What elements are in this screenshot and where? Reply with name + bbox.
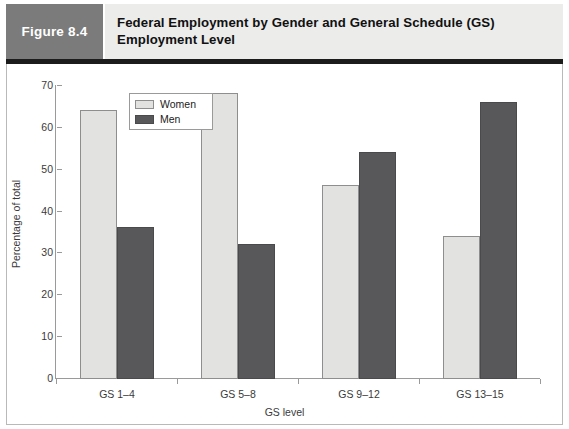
bar-women-1 — [201, 93, 238, 379]
y-axis-tick-mark — [57, 169, 62, 170]
x-axis-tick-mark — [177, 379, 178, 384]
legend-label-women: Women — [160, 99, 196, 110]
legend-swatch-women-icon — [135, 100, 154, 109]
figure-title: Federal Employment by Gender and General… — [117, 15, 517, 49]
y-axis-tick-label: 50 — [41, 163, 53, 175]
bar-women-3 — [443, 236, 480, 379]
y-axis-tick-mark — [57, 294, 62, 295]
legend-item-women: Women — [135, 98, 207, 111]
y-axis-title: Percentage of total — [10, 164, 22, 284]
figure-title-container: Federal Employment by Gender and General… — [103, 4, 563, 59]
bar-men-3 — [480, 102, 517, 379]
x-axis-title: GS level — [0, 406, 569, 418]
y-axis-tick-label: 60 — [41, 121, 53, 133]
chart-legend: Women Men — [129, 93, 213, 130]
y-axis-tick: 40 — [20, 205, 62, 217]
x-axis-tick-mark — [419, 379, 420, 384]
legend-item-men: Men — [135, 113, 207, 126]
y-axis-tick-mark — [57, 211, 62, 212]
y-axis-tick: 70 — [20, 79, 62, 91]
x-axis-category-label: GS 13–15 — [456, 388, 503, 400]
y-axis-tick-mark — [57, 378, 62, 379]
bar-men-2 — [359, 152, 396, 379]
y-axis-tick-label: 30 — [41, 246, 53, 258]
x-axis-category-label: GS 5–8 — [220, 388, 256, 400]
y-axis-tick-mark — [57, 85, 62, 86]
y-axis-tick: 20 — [20, 288, 62, 300]
x-axis-category-label: GS 9–12 — [338, 388, 379, 400]
y-axis-tick-mark — [57, 127, 62, 128]
y-axis-tick: 10 — [20, 330, 62, 342]
y-axis-tick: 30 — [20, 246, 62, 258]
x-axis-tick-mark — [56, 379, 57, 384]
x-axis-tick-mark — [540, 379, 541, 384]
legend-swatch-men-icon — [135, 115, 154, 124]
bar-women-2 — [322, 185, 359, 379]
y-axis-tick-label: 0 — [47, 372, 53, 384]
y-axis-tick: 50 — [20, 163, 62, 175]
bar-men-0 — [117, 227, 154, 379]
bar-women-0 — [80, 110, 117, 379]
bar-men-1 — [238, 244, 275, 379]
x-axis-category-label: GS 1–4 — [99, 388, 135, 400]
figure-container: Figure 8.4 Federal Employment by Gender … — [0, 0, 569, 429]
y-axis-tick-label: 10 — [41, 330, 53, 342]
figure-header: Figure 8.4 Federal Employment by Gender … — [6, 4, 563, 59]
legend-label-men: Men — [160, 114, 180, 125]
y-axis-tick-label: 40 — [41, 205, 53, 217]
figure-number-tab: Figure 8.4 — [6, 4, 103, 59]
y-axis-tick-label: 20 — [41, 288, 53, 300]
y-axis-tick-mark — [57, 336, 62, 337]
x-axis-tick-mark — [298, 379, 299, 384]
y-axis-tick: 60 — [20, 121, 62, 133]
y-axis-tick-mark — [57, 252, 62, 253]
y-axis-tick-label: 70 — [41, 79, 53, 91]
